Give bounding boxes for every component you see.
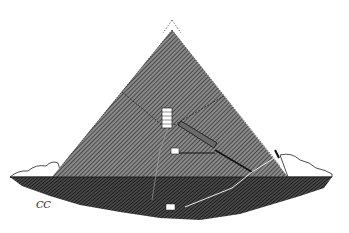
pyramid-engraving	[0, 0, 349, 233]
kings-chamber	[162, 108, 172, 128]
pyramid-cross-section-illustration: CC	[0, 0, 349, 233]
bedrock	[10, 177, 332, 220]
artist-signature: CC	[36, 199, 50, 210]
queens-chamber	[171, 148, 179, 154]
subterranean-chamber	[166, 204, 175, 210]
rubble-right	[280, 154, 332, 177]
pyramid-body	[52, 30, 288, 177]
